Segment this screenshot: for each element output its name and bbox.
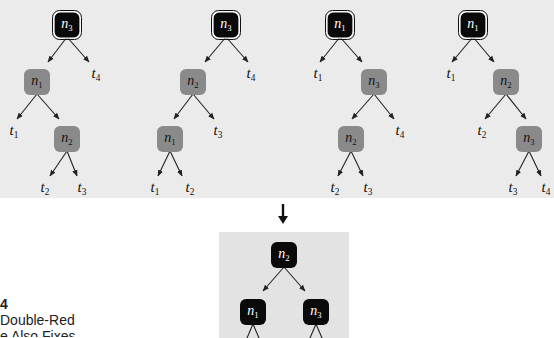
- tree-edge: [253, 324, 262, 338]
- tree-edge: [316, 324, 325, 338]
- nodes-layer: n3n1n2n3n2n1n1n3n2n1n2n3n2n1n3: [24, 11, 542, 326]
- tree-edge: [340, 37, 362, 62]
- node-n1-red: n1: [157, 126, 183, 152]
- leaves-layer: t4t1t2t3t4t3t1t2t1t4t2t3t1t2t3t4: [10, 65, 551, 197]
- node-n2-red: n2: [180, 69, 206, 95]
- tree-edge: [158, 151, 170, 176]
- tree-edge: [193, 94, 214, 119]
- caption-line-2: e Also Fixes: [0, 328, 75, 337]
- node-n2-red: n2: [338, 126, 364, 152]
- leaf-t3: t3: [364, 179, 373, 197]
- down-arrow-icon: [278, 204, 288, 224]
- tree-edge: [37, 94, 59, 119]
- node-n1-black: n1: [326, 11, 355, 40]
- node-n2-black: n2: [271, 242, 297, 268]
- leaf-t4: t4: [247, 65, 256, 83]
- node-n3-red: n3: [516, 126, 542, 152]
- tree-edge: [351, 151, 363, 176]
- leaf-t1: t1: [10, 122, 19, 140]
- tree-edge: [352, 94, 374, 119]
- leaf-t1: t1: [314, 65, 323, 83]
- tree-3: [320, 37, 394, 176]
- tree-edge: [485, 94, 506, 119]
- node-n1-black: n1: [240, 299, 266, 325]
- tree-edge: [529, 151, 541, 176]
- leaf-t4: t4: [396, 122, 405, 140]
- leaf-t2: t2: [331, 179, 340, 197]
- tree-edge: [506, 94, 526, 119]
- leaf-t1: t1: [447, 65, 456, 83]
- leaf-t2: t2: [186, 179, 195, 197]
- tree-edge: [67, 151, 77, 176]
- leaf-t4: t4: [542, 179, 551, 197]
- leaf-t3: t3: [78, 179, 87, 197]
- tree-edge: [516, 151, 529, 176]
- leaf-t2: t2: [41, 179, 50, 197]
- tree-edge: [374, 94, 394, 119]
- leaf-t4: t4: [92, 65, 101, 83]
- tree-edge: [307, 324, 316, 338]
- leaf-t3: t3: [509, 179, 518, 197]
- figure-caption: 4 Double-Red e Also Fixes: [0, 296, 75, 337]
- node-n1-red: n1: [24, 69, 50, 95]
- tree-edge: [263, 267, 284, 291]
- node-n3-red: n3: [361, 69, 387, 95]
- caption-line-2-clipped: e Also Fixes: [0, 328, 75, 337]
- tree-edge: [244, 324, 253, 338]
- leaf-t2: t2: [478, 122, 487, 140]
- tree-edge: [473, 37, 494, 62]
- tree-4: [452, 37, 541, 176]
- tree-edge: [48, 37, 67, 62]
- tree-edge: [205, 37, 226, 62]
- node-n2-red: n2: [493, 69, 519, 95]
- caption-line-1: Double-Red: [0, 312, 75, 328]
- tree-edge: [284, 267, 305, 291]
- node-n3-black: n3: [212, 11, 241, 40]
- tree-edge: [226, 37, 248, 62]
- tree-diagram: n3n1n2n3n2n1n1n3n2n1n2n3n2n1n3 t4t1t2t3t…: [0, 0, 554, 338]
- figure-number: 4: [0, 296, 75, 312]
- leaf-t1: t1: [151, 179, 160, 197]
- tree-edge: [174, 94, 193, 119]
- node-n3-black: n3: [303, 299, 329, 325]
- leaf-t3: t3: [214, 122, 223, 140]
- node-n1-black: n1: [459, 11, 488, 40]
- tree-1: [17, 37, 89, 176]
- tree-2: [158, 37, 248, 176]
- node-n3-black: n3: [53, 11, 82, 40]
- tree-edge: [320, 37, 340, 62]
- tree-edge: [170, 151, 182, 176]
- tree-edge: [50, 151, 67, 176]
- node-n2-red: n2: [54, 126, 80, 152]
- tree-edge: [67, 37, 89, 62]
- tree-edge: [338, 151, 351, 176]
- tree-edge: [17, 94, 37, 119]
- tree-edge: [452, 37, 473, 62]
